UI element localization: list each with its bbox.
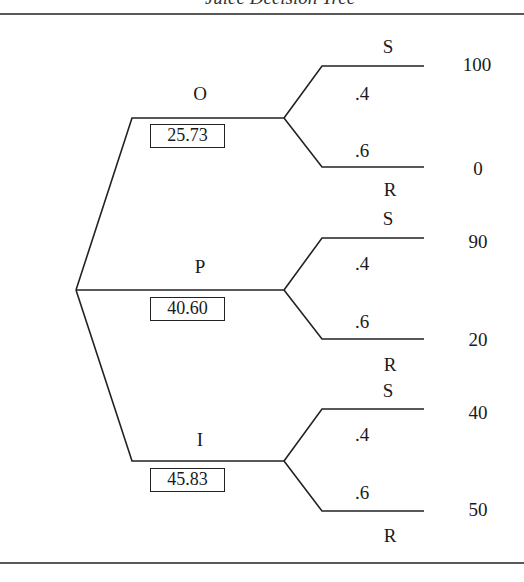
expected-value-box-p: 40.60 <box>150 297 225 321</box>
state-label-i-s: S <box>383 381 394 400</box>
payoff-p-r: 20 <box>469 330 488 349</box>
expected-value-box-i: 45.83 <box>150 468 225 492</box>
payoff-i-s: 40 <box>469 403 488 422</box>
state-label-o-s: S <box>383 37 394 56</box>
probability-i-s: .4 <box>355 425 369 444</box>
probability-p-r: .6 <box>355 312 369 331</box>
expected-value-box-o: 25.73 <box>150 124 225 148</box>
state-label-p-r: R <box>384 355 397 374</box>
payoff-o-s: 100 <box>463 55 492 74</box>
state-label-p-s: S <box>383 209 394 228</box>
probability-i-r: .6 <box>355 483 369 502</box>
probability-o-r: .6 <box>355 141 369 160</box>
probability-o-s: .4 <box>355 84 369 103</box>
decision-tree-figure: Juice Decision Tree O 25.73 S .4 .6 R 10… <box>0 0 524 582</box>
state-label-o-r: R <box>384 180 397 199</box>
state-label-i-r: R <box>384 526 397 545</box>
branch-label-p: P <box>195 257 206 276</box>
probability-p-s: .4 <box>355 254 369 273</box>
branch-label-i: I <box>197 430 203 449</box>
payoff-i-r: 50 <box>469 500 488 519</box>
branch-label-o: O <box>193 84 207 103</box>
payoff-o-r: 0 <box>473 159 483 178</box>
payoff-p-s: 90 <box>469 232 488 251</box>
tree-lines <box>0 0 524 582</box>
